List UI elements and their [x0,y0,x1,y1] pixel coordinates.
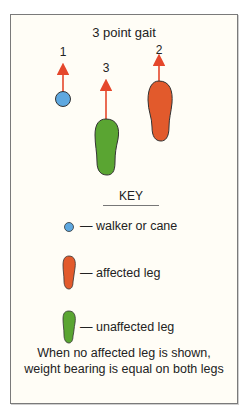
step-number-3: 3 [96,61,116,75]
note-line-1: When no affected leg is shown, [11,345,237,361]
weight-bearing-note: When no affected leg is shown, weight be… [11,345,237,377]
note-line-2: weight bearing is equal on both legs [11,361,237,377]
diagram-frame: 3 point gait 1 3 2 KEY — walker or cane [10,14,238,404]
walker-cane-icon [56,69,71,107]
key-label-unaffected: — unaffected leg [80,320,174,334]
key-circle-icon [65,223,74,232]
key-title: KEY [103,189,159,206]
affected-leg-footprint-icon [148,60,172,141]
unaffected-leg-footprint-icon [95,85,119,175]
key-label-walker: — walker or cane [80,219,177,233]
step-number-1: 1 [53,45,73,59]
key-green-footprint-icon [63,311,75,343]
key-orange-footprint-icon [63,256,75,289]
key-label-affected: — affected leg [80,266,160,280]
step-number-2: 2 [149,43,169,57]
